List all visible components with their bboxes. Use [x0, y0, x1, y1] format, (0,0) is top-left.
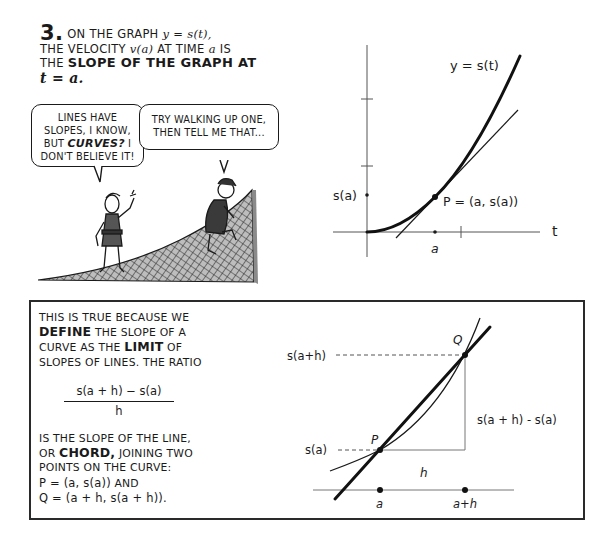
point-p [432, 194, 438, 200]
a-dot [377, 487, 383, 493]
definition-text: This is true because we define the slope… [39, 311, 269, 370]
fraction-bar [64, 401, 174, 402]
define-emphasis: define [39, 324, 91, 339]
point-q [462, 352, 468, 358]
q-label: Q [453, 333, 462, 347]
top-graph: y = s(t) s(a) P = (a, s(a)) a t [300, 0, 613, 290]
caption-line-2: the velocity v(a) at time a is [40, 42, 300, 57]
t-axis-label: t [552, 223, 558, 239]
s-a-label: s(a) [305, 443, 327, 457]
a-dot [433, 230, 437, 234]
caption-line-1: 3. On the graph y = s(t), [40, 26, 300, 42]
p-label: P [371, 433, 379, 447]
speech-bubble-skeptic: Lines have slopes, I know, but curves? I… [31, 104, 144, 167]
tangent-line [396, 110, 518, 238]
chord-graph: s(a+h) s(a) Q P s(a + h) - s(a) h a a+h [250, 302, 583, 518]
a-plus-h-label: a+h [453, 497, 477, 511]
point-p [377, 447, 383, 453]
a-plus-h-dot [462, 487, 468, 493]
bubble-tail-climber [220, 160, 228, 172]
s-a-label: s(a) [333, 188, 357, 203]
s-a-dot [365, 193, 369, 197]
fraction-numerator: s(a + h) − s(a) [64, 384, 174, 398]
point-p-definition: P = (a, s(a)) [39, 476, 111, 490]
point-p-label: P = (a, s(a)) [443, 194, 518, 209]
chord-emphasis: chord, [59, 445, 115, 460]
rise-label: s(a + h) - s(a) [477, 413, 557, 427]
speech-bubble-climber: Try walking up one, then tell me that... [139, 104, 279, 150]
caption-emphasis: slope of the graph at [68, 55, 257, 70]
s-a-plus-h-label: s(a+h) [287, 349, 326, 363]
caption-line-3: the slope of the graph at [40, 56, 300, 71]
chord-text: is the slope of the line, or chord, join… [39, 432, 269, 506]
bubble-tail-skeptic [94, 166, 102, 182]
point-q-definition: Q = (a + h, s(a + h)). [39, 491, 167, 505]
a-label: a [376, 497, 383, 511]
run-label: h [420, 466, 428, 480]
fraction-denominator: h [64, 404, 174, 418]
top-caption: 3. On the graph y = s(t), the velocity v… [40, 26, 300, 86]
math-y-equals-s-t: y = s(t), [163, 27, 212, 41]
limit-emphasis: limit [124, 339, 163, 354]
difference-quotient: s(a + h) − s(a) h [64, 384, 174, 418]
caption-line-4: t = a. [40, 71, 300, 87]
a-label: a [431, 241, 439, 256]
cartoon-illustration [30, 160, 300, 285]
curve-label: y = s(t) [450, 58, 499, 73]
